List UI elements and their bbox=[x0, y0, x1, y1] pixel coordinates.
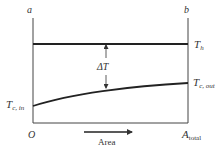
cold-temperature-curve bbox=[33, 83, 188, 106]
label-cold-out: Tc, out bbox=[193, 76, 216, 90]
label-origin: O bbox=[28, 129, 35, 140]
label-area: Area bbox=[98, 137, 116, 147]
label-delta-t: ΔT bbox=[96, 61, 110, 72]
label-b: b bbox=[184, 4, 189, 15]
label-area-total: Atotal bbox=[181, 128, 201, 142]
label-a: a bbox=[27, 4, 32, 15]
label-cold-in: Tc, in bbox=[6, 98, 25, 112]
temperature-profile-diagram: a b Th ΔT Tc, in Tc, out O Atotal Area bbox=[0, 0, 222, 150]
label-hot-temp: Th bbox=[194, 38, 204, 52]
